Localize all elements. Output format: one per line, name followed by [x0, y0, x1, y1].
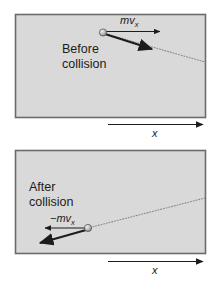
caption-after-line1: After: [29, 180, 55, 194]
caption-before-line1: Before: [62, 42, 99, 56]
x-axis-label-after: x: [151, 264, 158, 276]
ball-before: [99, 29, 106, 36]
caption-before-line2: collision: [62, 57, 107, 71]
momentum-label-subscript-before: x: [134, 20, 139, 29]
x-axis-label-before: x: [151, 127, 158, 139]
panel-after-collision: −mvx After collision x: [16, 151, 206, 277]
caption-after-line2: collision: [29, 195, 74, 209]
ball-after: [84, 224, 91, 231]
momentum-label-subscript-after: x: [70, 218, 75, 227]
panel-before-background: [16, 15, 206, 118]
physics-collision-figure: mvx Before collision x −mvx: [0, 0, 212, 282]
panel-before-collision: mvx Before collision x: [16, 14, 206, 139]
